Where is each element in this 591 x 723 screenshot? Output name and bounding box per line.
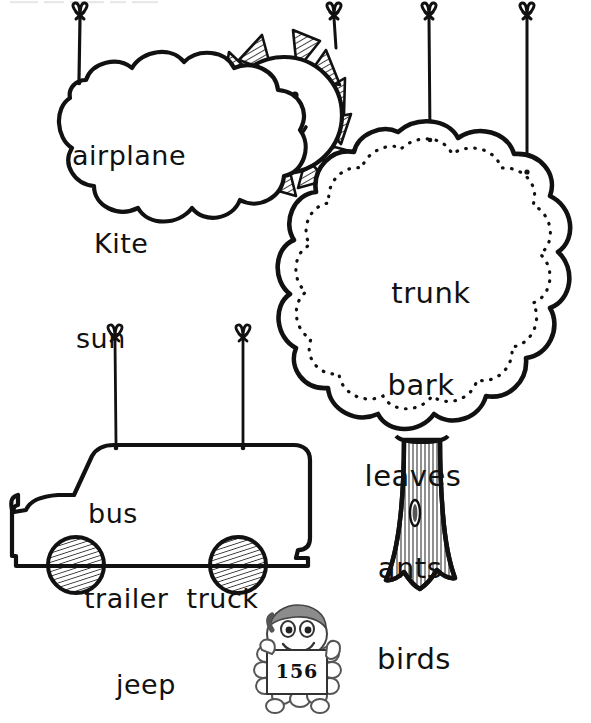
bus-pin-dot-right <box>241 446 246 451</box>
cloud-pin-dot <box>77 81 82 86</box>
hanger-sun <box>327 3 341 48</box>
bow-icon <box>327 3 341 19</box>
bow-icon <box>236 325 250 341</box>
bow-icon <box>73 3 87 19</box>
cloud-shape <box>59 52 306 222</box>
hanger-tree-left <box>422 3 436 137</box>
bow-icon <box>108 325 122 341</box>
bus-pin-dot-left <box>114 446 119 451</box>
tree-pin-dot-left <box>428 138 433 143</box>
page-number-sign <box>267 650 327 694</box>
page-number-badge <box>254 605 341 713</box>
worksheet-canvas <box>0 0 591 723</box>
tree-shape <box>278 121 571 596</box>
hanger-bus-left <box>108 325 122 443</box>
tree-pin-dot-right <box>524 169 529 174</box>
hanger-bus-right <box>236 325 250 443</box>
bus-wheel-rear <box>210 537 266 593</box>
bus-wheel-front <box>48 537 104 593</box>
bow-icon <box>520 3 534 19</box>
hanger-tree-right <box>520 3 534 170</box>
bow-icon <box>422 3 436 19</box>
bus-shape <box>11 445 310 593</box>
hanger-cloud <box>73 3 87 80</box>
hanger-strings-bus <box>108 325 250 443</box>
